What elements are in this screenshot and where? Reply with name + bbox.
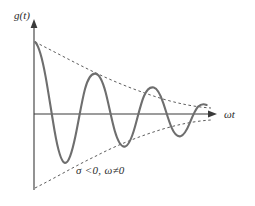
damped-sinusoid-curve bbox=[35, 42, 206, 163]
y-axis-label: g(t) bbox=[14, 9, 30, 22]
upper-envelope-curve bbox=[35, 42, 211, 108]
damped-oscillation-figure: g(t) ωt σ <0, ω≠0 bbox=[0, 0, 255, 206]
x-axis bbox=[34, 111, 217, 118]
x-axis-label: ωt bbox=[224, 108, 236, 120]
y-axis-arrowhead bbox=[31, 19, 38, 28]
x-axis-arrowhead bbox=[208, 111, 217, 118]
plot-canvas: g(t) ωt σ <0, ω≠0 bbox=[0, 0, 255, 206]
lower-envelope-curve bbox=[35, 120, 211, 188]
damping-condition-annotation: σ <0, ω≠0 bbox=[76, 164, 125, 176]
